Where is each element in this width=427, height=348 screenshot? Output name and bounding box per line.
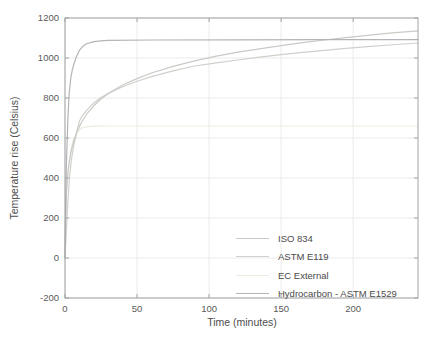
legend-label-iso-834: ISO 834 [278,233,313,244]
x-axis-label: Time (minutes) [207,316,277,328]
legend-line-swatch-iso-834 [236,238,269,239]
legend-label-ec-external: EC External [278,270,329,281]
y-tick-label: 0 [54,252,59,263]
curves [65,31,418,258]
legend-item-astm-e119: ASTM E119 [236,248,397,267]
curve-hydrocarbon-astm-e1529 [65,40,418,258]
legend-line-swatch-hydrocarbon-astm-e1529 [236,293,269,294]
legend-item-ec-external: EC External [236,266,397,285]
figure: 050100150200-200020040060080010001200 Ti… [0,0,427,348]
legend-line-swatch-ec-external [236,275,269,276]
x-tick-label: 150 [273,303,289,314]
curve-astm-e119 [65,43,418,258]
x-tick-label: 50 [132,303,143,314]
x-tick-label: 200 [345,303,361,314]
legend-item-iso-834: ISO 834 [236,229,397,248]
legend-label-hydrocarbon-astm-e1529: Hydrocarbon - ASTM E1529 [278,288,397,299]
y-axis-label: Temperature rise (Celsius) [8,96,20,219]
legend-label-astm-e119: ASTM E119 [278,251,329,262]
x-tick-label: 100 [201,303,217,314]
y-tick-label: 200 [43,212,59,223]
y-tick-label: 1200 [38,12,59,23]
legend-item-hydrocarbon-astm-e1529: Hydrocarbon - ASTM E1529 [236,285,397,304]
legend: ISO 834 ASTM E119 EC External Hydrocarbo… [236,229,397,303]
x-tick-label: 0 [62,303,67,314]
y-tick-label: 1000 [38,52,59,63]
y-tick-label: -200 [40,292,59,303]
y-tick-label: 400 [43,172,59,183]
y-tick-label: 600 [43,132,59,143]
curve-iso-834 [65,31,418,258]
legend-line-swatch-astm-e119 [236,256,269,257]
y-tick-label: 800 [43,92,59,103]
